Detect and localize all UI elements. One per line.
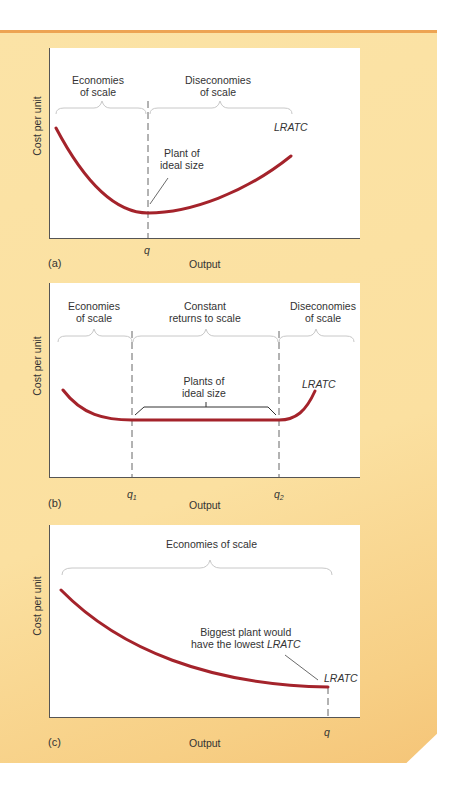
curve-label-lratc: LRATC <box>324 672 358 684</box>
region-label-economies: Economiesof scale <box>68 300 120 324</box>
panel-c-ylabel: Cost per unit <box>31 566 43 646</box>
panel-b-plot-area: Economiesof scale Constantreturns to sca… <box>49 283 360 478</box>
region-label-economies: Economiesof scale <box>72 74 124 98</box>
annotation-biggest-plant: Biggest plant would have the lowest LRAT… <box>191 626 301 650</box>
curve-label-lratc: LRATC <box>274 121 308 133</box>
panel-b-ylabel: Cost per unit <box>31 326 43 406</box>
annotation-plant-ideal-size: Plant ofideal size <box>160 147 204 171</box>
panel-c-xlabel: Output <box>189 737 221 749</box>
panel-b-q2-tick: q2 <box>274 488 284 501</box>
annotation-leader <box>285 655 318 680</box>
panel-c-plot-area: Economies of scale Biggest plant would h… <box>49 525 360 718</box>
annotation-plants-ideal-size: Plants ofideal size <box>182 375 226 399</box>
panel-c-svg <box>50 525 361 718</box>
brace-diseconomies-icon <box>150 101 292 114</box>
brace-diseconomies-icon <box>279 329 354 342</box>
region-label-constant-returns: Constantreturns to scale <box>169 300 241 324</box>
annotation-leader <box>150 178 168 204</box>
brace-economies-icon <box>62 560 332 575</box>
top-rule <box>0 30 437 33</box>
region-label-diseconomies: Diseconomiesof scale <box>290 300 356 324</box>
region-label-economies: Economies of scale <box>166 538 257 550</box>
panel-b-xlabel: Output <box>189 499 221 511</box>
panel-b-q1-tick: q1 <box>127 488 137 501</box>
brace-economies-icon <box>58 329 132 342</box>
brace-constant-icon <box>133 329 278 342</box>
region-label-diseconomies: Diseconomiesof scale <box>185 74 251 98</box>
panel-a-plot-area: Economiesof scale Diseconomiesof scale L… <box>49 48 360 239</box>
curve-label-lratc: LRATC <box>302 378 336 390</box>
panel-a-q-tick: q <box>144 244 150 256</box>
panel-c-tag: (c) <box>48 736 61 748</box>
panel-b-tag: (b) <box>48 497 61 509</box>
panel-c-q-tick: q <box>324 726 330 738</box>
panel-a-ylabel: Cost per unit <box>31 86 43 166</box>
panel-a-xlabel: Output <box>189 258 221 270</box>
ideal-size-bracket <box>135 407 276 415</box>
panel-a-tag: (a) <box>48 257 61 269</box>
brace-economies-icon <box>56 101 146 114</box>
